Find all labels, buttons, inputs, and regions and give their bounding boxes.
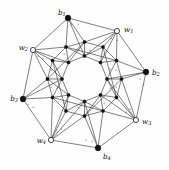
graph-edge-outer-to-mid [23,98,53,100]
edge-weight-label: x [89,105,91,109]
graph-edge-inner-ring [85,56,101,63]
edge-weight-label: x [70,22,72,26]
edge-weight-label: x [63,52,65,56]
graph-edge-outer-to-mid [122,79,137,120]
edge-weight-label: x [27,102,29,106]
vertex-label-w3: w3 [142,117,151,126]
graph-edge-mid-to-inner [53,95,69,98]
mid-vertex-node [115,59,118,62]
graph-edge-mid-to-inner [85,102,104,112]
edge-weight-label: x [103,52,105,56]
vertex-label-b1: b1 [58,8,66,17]
vertex-label-subscript: 2 [156,71,160,77]
edge-weight-label: x [115,68,117,72]
mid-vertex-node [101,109,104,112]
graph-edge-chord [107,79,136,120]
graph-edge-mid-to-inner [66,102,85,112]
vertex-label-w4: w4 [37,136,46,145]
vertex-label-subscript: 3 [148,120,151,126]
graph-edge-outer-to-mid [103,111,136,120]
outer-vertex-w2 [30,47,35,52]
edge-weight-label: x [85,138,87,142]
inner-vertex-node [83,54,86,57]
outer-vertex-layer [20,15,149,151]
graph-edge-mid-ring [103,98,117,112]
vertex-label-b2: b2 [152,68,160,77]
edge-weight-label: x [91,139,93,143]
graph-edge-outer-to-mid [51,116,85,140]
mid-vertex-node [83,114,86,117]
outer-vertex-w4 [48,137,53,142]
edge-weight-label: x [42,56,44,60]
graph-edge-chord [51,95,69,140]
graph-edge-outer-to-mid [98,111,103,148]
outer-vertex-b3 [20,96,26,102]
graph-edge-inner-ring [101,63,108,80]
graph-edge-outer-ring [98,120,136,148]
edge-weight-label: x [37,54,39,58]
outer-vertex-w1 [114,28,119,33]
edge-tick-layer: xxxxxxxxxxxxxxxxxxxxxxxxxxxxxxxx [27,22,144,143]
vertex-label-subscript: 4 [42,139,46,145]
graph-edge-mid-to-inner [101,61,117,63]
outer-vertex-w3 [133,117,138,122]
edge-weight-label: x [56,67,58,71]
mid-vertex-node [83,40,86,43]
graph-canvas: xxxxxxxxxxxxxxxxxxxxxxxxxxxxxxxx b1w1b2w… [0,0,169,170]
inner-vertex-node [83,100,86,103]
vertex-label-b3: b3 [10,94,18,103]
graph-edge-outer-ring [23,50,33,99]
edge-weight-label: x [115,85,117,89]
edge-weight-label: x [78,48,80,52]
outer-vertex-b2 [143,69,149,75]
edge-weight-label: x [103,101,105,105]
graph-edge-outer-to-mid [85,116,99,148]
vertex-label-w2: w2 [19,43,28,52]
inner-vertex-node [67,61,70,64]
inner-vertex-node [67,93,70,96]
mid-vertex-node [64,109,67,112]
vertex-label-subscript: 1 [130,28,133,34]
mid-vertex-node [101,45,104,48]
vertex-label-w1: w1 [124,25,133,34]
outer-vertex-b1 [65,15,71,21]
edge-weight-label: x [109,86,111,90]
mid-vertex-node [64,45,67,48]
edge-weight-label: x [110,36,112,40]
edge-layer [23,18,146,148]
graph-edge-outer-to-mid [117,98,137,121]
graph-edge-outer-ring [117,31,146,72]
edge-weight-label: x [50,68,52,72]
mid-vertex-node [120,77,123,80]
graph-edge-outer-to-mid [117,31,118,61]
graph-edge-chord [51,102,85,141]
vertex-label-subscript: 4 [107,155,111,161]
graph-edge-inner-ring [62,63,69,80]
vertex-label-b4: b4 [103,152,111,161]
inner-vertex-node [60,77,63,80]
edge-weight-label: x [116,38,118,42]
outer-vertex-b4 [95,145,101,151]
edge-weight-label: x [89,48,91,52]
mid-vertex-node [51,59,54,62]
edge-weight-label: x [125,110,127,114]
graph-edge-mid-ring [85,42,104,47]
edge-weight-label: x [129,107,131,111]
mid-vertex-node [46,77,49,80]
graph-edge-inner-ring [69,95,85,102]
edge-weight-label: x [32,105,34,109]
graph-edge-inner-ring [101,79,108,95]
graph-edge-outer-to-mid [33,47,66,50]
edge-weight-label: x [50,85,52,89]
graph-edge-outer-to-mid [66,18,68,47]
edge-weight-label: x [77,22,79,26]
edge-weight-label: x [56,86,58,90]
inner-vertex-node [105,77,108,80]
mid-vertex-node [115,96,118,99]
edge-weight-label: x [77,105,79,109]
inner-vertex-node [99,93,102,96]
inner-vertex-layer [60,54,108,103]
edge-weight-label: x [63,101,65,105]
edge-weight-label: x [109,67,111,71]
graph-edge-mid-to-inner [101,95,117,98]
